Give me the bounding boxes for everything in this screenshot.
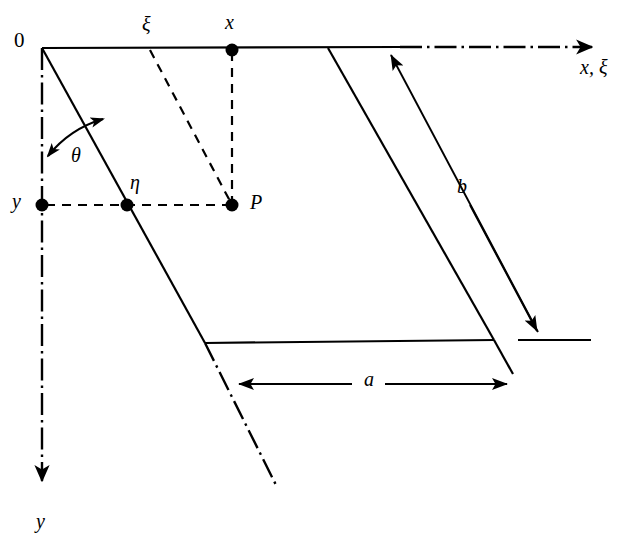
point-dot-y <box>36 199 49 212</box>
label-dimension-a: a <box>364 369 374 389</box>
left-slant-extension-dashdot <box>205 343 277 487</box>
label-origin: 0 <box>14 30 25 51</box>
label-xi-top: ξ <box>142 14 151 34</box>
figure-canvas <box>0 0 639 545</box>
point-dot-x <box>226 44 239 57</box>
plate-left-slant-edge <box>42 48 205 343</box>
label-x-top: x <box>225 12 234 32</box>
label-eta: η <box>130 172 140 192</box>
label-dimension-b: b <box>457 176 467 196</box>
plate-top-edge <box>42 47 400 48</box>
dashed-xi-slant-to-p <box>150 50 231 203</box>
geometry-figure: 0 ξ x x, ξ θ η y P y b a <box>0 0 639 545</box>
plate-right-slant-extension <box>494 340 513 374</box>
plate-bottom-edge <box>205 340 494 343</box>
point-dot-p <box>226 199 239 212</box>
label-y-left: y <box>12 191 21 211</box>
point-dot-eta <box>121 199 134 212</box>
label-y-bottom: y <box>36 511 45 531</box>
label-theta: θ <box>71 145 81 165</box>
label-point-p: P <box>250 192 262 212</box>
dimension-b-arrow-down <box>470 205 537 331</box>
label-axis-x-xi: x, ξ <box>580 57 607 77</box>
